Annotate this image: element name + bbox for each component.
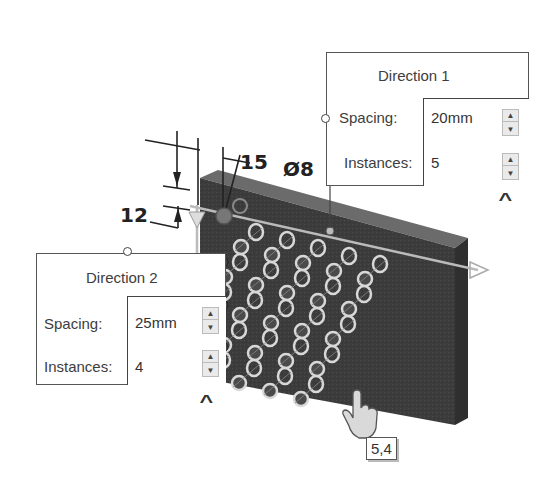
spin-up-icon[interactable]: ▲	[503, 110, 518, 122]
direction2-spacing-spinner[interactable]: ▲ ▼	[202, 307, 219, 334]
direction2-instances-spinner[interactable]: ▲ ▼	[202, 350, 219, 377]
direction1-collapse-chevron-up-icon[interactable]: ^	[498, 190, 512, 211]
direction2-callout: Direction 2 Spacing: Instances: 25mm ▲ ▼…	[36, 253, 226, 385]
dimension-hole-diameter[interactable]: Ø8	[283, 157, 314, 181]
direction1-callout: Direction 1 Spacing: Instances: 20mm ▲ ▼…	[326, 52, 529, 186]
direction2-anchor-icon[interactable]	[123, 247, 132, 256]
spin-down-icon[interactable]: ▼	[503, 167, 518, 179]
spin-up-icon[interactable]: ▲	[203, 308, 218, 320]
direction2-title: Direction 2	[86, 269, 158, 286]
seed-hole	[216, 208, 232, 224]
direction2-spacing-label: Spacing:	[44, 315, 102, 332]
spin-up-icon[interactable]: ▲	[203, 351, 218, 363]
direction2-spacing-input[interactable]: 25mm	[135, 314, 177, 331]
dimension-offset-x[interactable]: 15	[240, 150, 268, 174]
spin-down-icon[interactable]: ▼	[203, 321, 218, 333]
direction1-instances-input[interactable]: 5	[431, 154, 439, 171]
instance-tooltip: 5,4	[366, 437, 397, 460]
direction1-anchor-icon[interactable]	[321, 114, 330, 123]
direction1-handle	[326, 227, 334, 235]
direction2-instances-label: Instances:	[44, 358, 112, 375]
direction1-instances-label: Instances:	[344, 154, 412, 171]
dimension-offset-y[interactable]: 12	[120, 203, 148, 227]
direction1-values-box: 20mm ▲ ▼ 5 ▲ ▼	[423, 98, 529, 186]
direction1-spacing-input[interactable]: 20mm	[431, 109, 473, 126]
spin-down-icon[interactable]: ▼	[503, 123, 518, 135]
direction2-instances-input[interactable]: 4	[135, 358, 143, 375]
direction1-spacing-spinner[interactable]: ▲ ▼	[502, 109, 519, 136]
direction2-collapse-chevron-up-icon[interactable]: ^	[199, 392, 213, 413]
spin-up-icon[interactable]: ▲	[503, 154, 518, 166]
direction1-instances-spinner[interactable]: ▲ ▼	[502, 153, 519, 180]
direction1-spacing-label: Spacing:	[339, 109, 397, 126]
direction1-title: Direction 1	[378, 67, 450, 84]
spin-down-icon[interactable]: ▼	[203, 364, 218, 376]
direction2-values-box: 25mm ▲ ▼ 4 ▲ ▼	[127, 296, 226, 385]
graphics-viewport[interactable]: 15 Ø8 12 Direction 1 Spacing: Instances:…	[0, 0, 560, 489]
